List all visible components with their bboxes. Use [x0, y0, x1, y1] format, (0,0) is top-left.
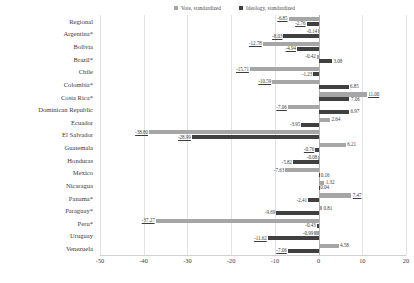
- bar-value-label: -7.63: [274, 168, 284, 173]
- bar-ideology: [319, 110, 349, 114]
- bar-row: 1.320.04: [100, 179, 406, 192]
- bar-value-label: -1.23: [302, 72, 312, 77]
- x-tick-label: -30: [183, 257, 191, 264]
- bar-value-label: -7.06: [276, 248, 286, 253]
- y-axis-label: Panama*: [0, 192, 97, 205]
- bar-value-label: -11.62: [254, 236, 267, 241]
- bar-row: -37.27-0.43: [100, 217, 406, 230]
- bar-vote: [317, 55, 319, 59]
- bar-ideology: [319, 59, 332, 63]
- x-axis-line: [100, 255, 406, 256]
- bar-value-label: -7.06: [276, 105, 286, 110]
- legend-label-ideology: Ideology, standardized: [246, 5, 295, 11]
- legend-item-vote: Vote, standardized: [174, 5, 221, 11]
- bar-ideology: [319, 85, 349, 89]
- bar-ideology: [317, 224, 319, 228]
- bar-value-label: -5.82: [282, 160, 292, 165]
- bar-row: -0.423.08: [100, 53, 406, 66]
- bar-row: -0.14-8.03: [100, 28, 406, 41]
- bar-ideology: [283, 34, 318, 38]
- bar-value-label: -38.80: [135, 130, 148, 135]
- bar-vote: [288, 105, 319, 109]
- bar-row: 0.81-9.69: [100, 204, 406, 217]
- y-axis-label: Chile: [0, 66, 97, 79]
- bar-value-label: -15.71: [236, 67, 249, 72]
- bar-row: 2.64-3.95: [100, 116, 406, 129]
- y-axis-label: Bolivia: [0, 40, 97, 53]
- bar-value-label: 6.97: [351, 109, 360, 114]
- bar-value-label: 0.81: [324, 206, 333, 211]
- y-axis-label: Colombia*: [0, 78, 97, 91]
- bar-row: -0.99-11.62: [100, 230, 406, 243]
- bar-row: -0.08-5.82: [100, 154, 406, 167]
- bar-vote: [319, 143, 346, 147]
- y-axis-label: Ecuador: [0, 116, 97, 129]
- gridline-20: [406, 15, 407, 255]
- bar-value-label: -28.99: [178, 135, 191, 140]
- bar-vote: [285, 168, 318, 172]
- bar-vote: [272, 80, 318, 84]
- bar-row: 7.47-2.41: [100, 192, 406, 205]
- bar-ideology: [315, 148, 318, 152]
- x-tick-label: -50: [96, 257, 104, 264]
- y-axis-label: Nicaragua: [0, 179, 97, 192]
- bar-ideology: [268, 236, 319, 240]
- bar-vote: [319, 193, 352, 197]
- bar-ideology: [288, 249, 319, 253]
- chart-legend: Vote, standardized Ideology, standardize…: [0, 2, 414, 14]
- bar-value-label: -4.94: [286, 46, 296, 51]
- bar-vote: [319, 118, 331, 122]
- bar-value-label: -0.42: [305, 54, 315, 59]
- x-tick-label: -40: [140, 257, 148, 264]
- bar-ideology: [319, 173, 320, 177]
- bar-value-label: 0.16: [321, 173, 330, 178]
- legend-swatch-vote-icon: [174, 6, 178, 10]
- bar-value-label: -10.59: [258, 79, 271, 84]
- bar-value-label: 6.21: [347, 142, 356, 147]
- bar-vote: [319, 244, 339, 248]
- legend-item-ideology: Ideology, standardized: [239, 5, 295, 11]
- bar-value-label: -12.78: [249, 41, 262, 46]
- y-axis-label: Regional: [0, 15, 97, 28]
- legend-swatch-ideology-icon: [239, 6, 243, 10]
- bar-value-label: -8.03: [272, 34, 282, 39]
- bar-ideology: [308, 198, 319, 202]
- bar-value-label: -2.41: [297, 198, 307, 203]
- bar-value-label: 7.47: [353, 193, 362, 198]
- x-axis-tick-labels: -50-40-30-20-1001020: [100, 257, 406, 269]
- bar-row: -15.71-1.23: [100, 66, 406, 79]
- bar-vote: [318, 29, 319, 33]
- bar-row: -10.596.85: [100, 78, 406, 91]
- plot-area: -6.85-2.76-0.14-8.03-12.78-4.94-0.423.08…: [100, 15, 406, 255]
- x-tick-label: 20: [403, 257, 409, 264]
- bar-ideology: [319, 186, 320, 190]
- x-tick-label: -10: [271, 257, 279, 264]
- y-axis-label: Uruguay: [0, 230, 97, 243]
- bar-value-label: 4.58: [340, 243, 349, 248]
- bar-value-label: -0.76: [304, 147, 314, 152]
- bar-ideology: [307, 22, 319, 26]
- y-axis-label: Venezuela: [0, 242, 97, 255]
- bar-value-label: 6.85: [350, 84, 359, 89]
- y-axis-label: Peru*: [0, 217, 97, 230]
- bar-row: 4.58-7.06: [100, 242, 406, 255]
- bar-value-label: 3.08: [334, 59, 343, 64]
- y-axis-label: Paraguay*: [0, 204, 97, 217]
- bar-value-label: -2.76: [295, 21, 305, 26]
- bar-value-label: 11.00: [368, 92, 379, 97]
- bar-ideology: [313, 72, 318, 76]
- bar-row: 11.007.06: [100, 91, 406, 104]
- bar-chart: Vote, standardized Ideology, standardize…: [0, 0, 414, 283]
- bar-row: 6.21-0.76: [100, 141, 406, 154]
- bar-vote: [319, 206, 323, 210]
- bar-row: -38.80-28.99: [100, 129, 406, 142]
- bar-value-label: 0.04: [320, 185, 329, 190]
- bar-vote: [149, 130, 319, 134]
- bar-ideology: [301, 123, 318, 127]
- bar-ideology: [276, 211, 318, 215]
- bar-rows: -6.85-2.76-0.14-8.03-12.78-4.94-0.423.08…: [100, 15, 406, 255]
- y-axis-label: El Salvador: [0, 129, 97, 142]
- bar-row: -7.066.97: [100, 103, 406, 116]
- x-tick-label: 10: [359, 257, 365, 264]
- bar-ideology: [192, 135, 319, 139]
